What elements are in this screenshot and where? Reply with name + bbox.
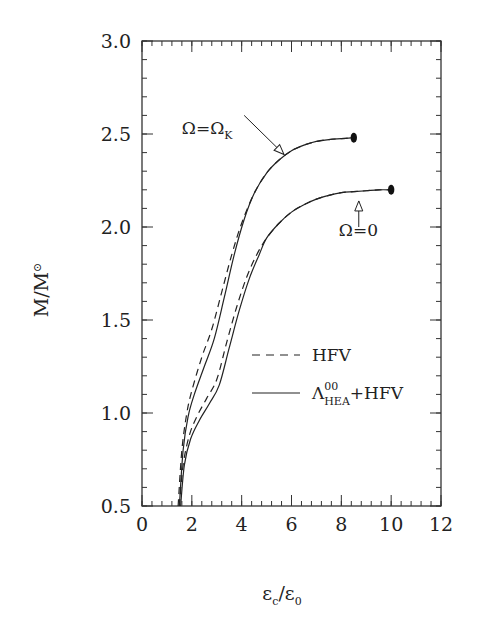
legend-label-lambda-hfv: Λ00HEA+HFV xyxy=(311,380,404,408)
labels-layer: 0246810120.51.01.52.02.53.0 xyxy=(101,30,453,535)
annotation-omega-kepler-main: Ω=Ω xyxy=(182,118,224,138)
y-tick-label: 3.0 xyxy=(101,30,131,52)
legend: HFV Λ00HEA+HFV xyxy=(252,345,404,408)
series-line-0 xyxy=(178,138,354,506)
x-tick-label: 2 xyxy=(186,513,198,535)
legend-label-sup: 00 xyxy=(324,380,338,393)
x-tick-label: 6 xyxy=(285,513,297,535)
x-axis-label: εc/ε0 xyxy=(262,582,301,608)
legend-label-sub: HEA xyxy=(324,395,351,408)
chart: 0246810120.51.01.52.02.53.0 M/M⊙ εc/ε0 Ω… xyxy=(0,0,479,629)
y-axis-label-main: M/M xyxy=(30,272,52,317)
y-tick-label: 1.0 xyxy=(101,402,131,424)
x-tick-label: 12 xyxy=(429,513,453,535)
annotation-omega-kepler: Ω=ΩK xyxy=(182,118,233,142)
x-axis-label-sub2: 0 xyxy=(295,595,302,608)
annotation-arrow-omega-kepler xyxy=(244,115,284,154)
plot-frame xyxy=(142,41,441,506)
annotation-omega-kepler-sub: K xyxy=(224,129,233,142)
y-tick-label: 1.5 xyxy=(101,309,131,331)
endpoint-marker xyxy=(351,133,357,143)
x-tick-label: 0 xyxy=(136,513,148,535)
y-tick-label: 2.0 xyxy=(101,216,131,238)
ticks-layer xyxy=(142,41,441,506)
legend-label-lambda: Λ xyxy=(311,383,325,403)
x-tick-label: 4 xyxy=(236,513,248,535)
series-line-1 xyxy=(179,138,353,506)
curves-layer xyxy=(178,133,394,506)
legend-label-hfv: HFV xyxy=(312,345,352,365)
x-tick-label: 8 xyxy=(335,513,347,535)
x-tick-label: 10 xyxy=(379,513,403,535)
y-tick-label: 2.5 xyxy=(101,123,131,145)
x-axis-label-main: ε xyxy=(262,582,272,604)
x-axis-label-main2: ε xyxy=(285,582,295,604)
y-axis-label: M/M⊙ xyxy=(30,263,52,318)
legend-label-tail: +HFV xyxy=(350,383,404,403)
y-axis-label-sub: ⊙ xyxy=(31,263,44,272)
endpoint-marker xyxy=(388,185,394,195)
y-tick-label: 0.5 xyxy=(101,495,131,517)
